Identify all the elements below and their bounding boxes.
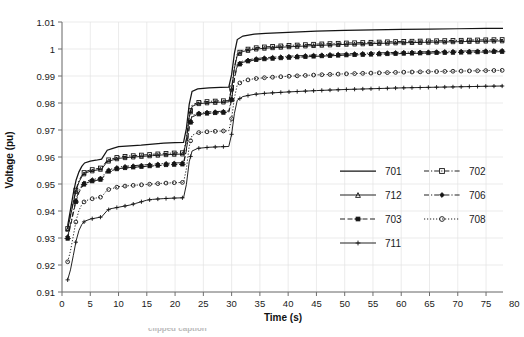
data-point-marker [254, 92, 258, 96]
data-point-marker [279, 90, 283, 94]
legend-label-711: 711 [385, 238, 401, 249]
x-tick-labels: 05101520253035404550556065707580 [59, 298, 519, 309]
data-point-marker [320, 88, 324, 92]
series-line-712 [68, 41, 503, 229]
data-point-marker [246, 93, 250, 97]
series-line-702 [68, 40, 503, 229]
data-point-marker [356, 241, 361, 246]
y-tick-label: 0.95 [37, 179, 56, 190]
x-tick-label: 80 [509, 298, 520, 309]
legend-entry-712[interactable]: 712 [340, 190, 402, 201]
x-tick-label: 10 [113, 298, 124, 309]
y-tick-label: 0.92 [37, 260, 56, 271]
series-line-706 [68, 50, 503, 236]
data-point-marker [451, 85, 455, 89]
data-point-marker [418, 85, 422, 89]
series-markers [65, 38, 506, 282]
data-point-marker [82, 200, 86, 204]
data-point-marker [172, 196, 176, 200]
data-point-marker [410, 86, 414, 90]
data-point-marker [402, 86, 406, 90]
data-point-marker [467, 84, 471, 88]
series-line-711 [68, 86, 503, 280]
data-point-marker [197, 146, 201, 150]
legend-entry-706[interactable]: 706 [424, 190, 486, 201]
data-point-marker [139, 200, 143, 204]
data-point-marker [311, 89, 315, 93]
data-point-marker [492, 84, 496, 88]
x-tick-label: 30 [226, 298, 237, 309]
y-tick-labels: 0.910.920.930.940.950.960.970.980.9911.0… [37, 17, 56, 298]
data-point-marker [434, 85, 438, 89]
data-point-marker [131, 202, 135, 206]
y-tick-label: 0.93 [37, 233, 56, 244]
data-point-marker [377, 86, 381, 90]
y-tick-label: 0.98 [37, 98, 56, 109]
legend-entry-711[interactable]: 711 [340, 238, 401, 249]
chart-canvas: 05101520253035404550556065707580 0.910.9… [0, 0, 524, 337]
data-point-marker [443, 69, 447, 73]
y-tick-label: 0.97 [37, 125, 56, 136]
data-point-marker [271, 91, 275, 95]
data-point-marker [354, 217, 361, 221]
legend-entry-708[interactable]: 708 [424, 214, 486, 225]
y-axis-title: Voltage (pu) [4, 131, 15, 188]
x-tick-label: 5 [88, 298, 93, 309]
y-tick-label: 0.96 [37, 152, 56, 163]
x-tick-label: 40 [283, 298, 294, 309]
y-tick-label: 0.91 [37, 287, 56, 298]
data-point-marker [295, 89, 299, 93]
y-tick-label: 0.99 [37, 71, 56, 82]
data-point-marker [328, 88, 332, 92]
data-point-marker [361, 87, 365, 91]
data-point-marker [122, 166, 128, 169]
data-point-marker [189, 154, 193, 158]
x-tick-label: 50 [339, 298, 350, 309]
legend-entry-701[interactable]: 701 [340, 166, 402, 177]
figure-caption-strip: clipped caption [0, 328, 524, 337]
data-point-marker [352, 87, 356, 91]
data-point-marker [74, 240, 78, 244]
legend-entry-702[interactable]: 702 [424, 166, 486, 177]
legend: 701702712706703708711 [340, 166, 486, 249]
data-point-marker [179, 163, 185, 166]
voltage-profile-figure: 05101520253035404550556065707580 0.910.9… [0, 0, 524, 337]
data-point-marker [459, 85, 463, 89]
data-point-marker [123, 204, 127, 208]
data-point-marker [475, 84, 479, 88]
x-tick-label: 70 [452, 298, 463, 309]
y-tick-label: 1.01 [37, 17, 56, 28]
x-tick-label: 45 [311, 298, 322, 309]
data-point-marker [262, 91, 266, 95]
data-point-marker [303, 89, 307, 93]
data-point-marker [164, 196, 168, 200]
data-point-marker [66, 278, 70, 282]
data-point-marker [98, 215, 102, 219]
data-point-marker [213, 145, 217, 149]
data-point-marker [443, 85, 447, 89]
data-point-marker [90, 217, 94, 221]
data-point-marker [385, 86, 389, 90]
x-tick-label: 55 [368, 298, 379, 309]
legend-entry-703[interactable]: 703 [340, 214, 402, 225]
legend-label-706: 706 [469, 190, 486, 201]
figure-caption: clipped caption [148, 328, 207, 333]
data-point-marker [238, 81, 242, 85]
legend-label-712: 712 [385, 190, 402, 201]
x-tick-label: 25 [198, 298, 209, 309]
data-point-marker [369, 87, 373, 91]
data-point-marker [440, 193, 445, 198]
legend-label-708: 708 [469, 214, 486, 225]
data-point-marker [130, 166, 136, 169]
x-tick-label: 0 [59, 298, 64, 309]
tick-marks [58, 22, 486, 296]
data-point-marker [148, 198, 152, 202]
series-line-701 [68, 28, 503, 225]
y-tick-label: 1 [50, 44, 55, 55]
legend-label-701: 701 [385, 166, 402, 177]
legend-label-703: 703 [385, 214, 402, 225]
data-point-marker [163, 163, 169, 166]
data-point-marker [221, 145, 225, 149]
x-tick-label: 75 [481, 298, 492, 309]
x-tick-label: 35 [255, 298, 266, 309]
